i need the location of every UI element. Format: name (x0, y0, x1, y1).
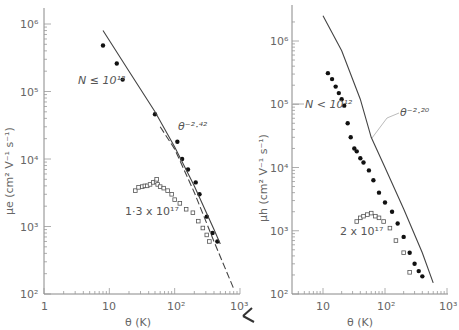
hollow-data-point (191, 211, 195, 215)
hollow-data-point (205, 233, 209, 237)
right-ytick: 10³ (270, 225, 288, 238)
left-xtick: 10 (102, 300, 116, 313)
left-ticks (44, 24, 240, 294)
filled-data-point (330, 77, 334, 81)
hollow-data-point (394, 239, 398, 243)
hollow-data-point (208, 240, 212, 244)
hollow-data-point (196, 219, 200, 223)
filled-data-point (383, 200, 387, 204)
hollow-data-point (366, 213, 370, 217)
filled-data-point (417, 269, 421, 273)
figure: 10² 10³ 10⁴ 10⁵ 10⁶ 1 10 10² 10³ θ (K) μ… (0, 0, 459, 330)
filled-data-point (194, 180, 198, 184)
filled-data-point (407, 250, 411, 254)
filled-data-point (401, 235, 405, 239)
filled-data-point (361, 160, 365, 164)
right-panel: 10² 10³ 10⁴ 10⁵ 10⁶ 10 10² 10³ θ (K) μh … (257, 5, 457, 329)
hollow-data-point (355, 220, 359, 224)
left-ytick: 10⁵ (20, 86, 38, 99)
hollow-data-point (170, 192, 174, 196)
filled-data-point (349, 135, 353, 139)
right-ytick: 10⁵ (270, 98, 288, 111)
filled-data-point (115, 61, 119, 65)
hollow-data-point (166, 189, 170, 193)
filled-data-point (395, 221, 399, 225)
hollow-data-point (201, 226, 205, 230)
hollow-data-point (158, 185, 162, 189)
filled-data-point (337, 91, 341, 95)
left-ytick: 10³ (20, 221, 38, 234)
filled-data-point (412, 262, 416, 266)
left-x-axis-label: θ (K) (125, 316, 151, 329)
left-ytick: 10² (20, 288, 38, 301)
hollow-data-point (184, 207, 188, 211)
filled-data-point (326, 71, 330, 75)
left-xtick: 1 (41, 300, 48, 313)
right-annotation-conc: 2 x 10¹⁷ (340, 225, 383, 238)
filled-data-point (358, 156, 362, 160)
hollow-data-point (388, 226, 392, 230)
left-x-tick-labels: 1 10 10² 10³ (41, 300, 248, 313)
right-ytick: 10² (270, 288, 288, 301)
right-annotation-n: N < 10¹² (305, 98, 353, 111)
left-xtick: 10² (167, 300, 185, 313)
hollow-data-point (374, 214, 378, 218)
right-annotation-power: θ⁻²·²⁰ (400, 106, 430, 119)
filled-data-point (367, 168, 371, 172)
filled-data-point (355, 149, 359, 153)
left-xtick: 10³ (230, 300, 248, 313)
right-x-axis-label: θ (K) (347, 316, 373, 329)
hollow-data-point (402, 251, 406, 255)
filled-data-point (101, 43, 105, 47)
hollow-data-point (408, 271, 412, 275)
right-y-tick-labels: 10² 10³ 10⁴ 10⁵ 10⁶ (270, 35, 289, 301)
right-xtick: 10 (316, 300, 330, 313)
hollow-data-point (173, 198, 177, 202)
left-plot-area (101, 31, 234, 289)
left-panel: 10² 10³ 10⁴ 10⁵ 10⁶ 1 10 10² 10³ θ (K) μ… (3, 8, 254, 329)
right-xtick: 10³ (439, 300, 457, 313)
left-y-axis-label: μe (cm² V⁻¹ s⁻¹) (3, 127, 16, 215)
right-annotation-power-leader (372, 113, 399, 138)
left-annotation-power: θ⁻²·⁴² (178, 120, 208, 133)
hollow-data-point (382, 220, 386, 224)
right-plot-area (323, 16, 433, 283)
hollow-data-point (362, 214, 366, 218)
left-axes (44, 8, 240, 294)
filled-data-point (210, 231, 214, 235)
hollow-data-point (137, 186, 141, 190)
hollow-data-point (369, 211, 373, 215)
theory-curve (323, 16, 433, 283)
right-x-tick-labels: 10 10² 10³ (316, 300, 457, 313)
filled-data-point (371, 178, 375, 182)
right-ytick: 10⁶ (270, 35, 289, 48)
left-annotation-conc: 1·3 x 10¹⁷ (125, 205, 179, 218)
hollow-data-point (377, 216, 381, 220)
left-y-tick-labels: 10² 10³ 10⁴ 10⁵ 10⁶ (20, 18, 39, 301)
filled-data-point (175, 140, 179, 144)
hollow-data-point (162, 186, 166, 190)
left-ytick: 10⁶ (20, 18, 39, 31)
filled-data-point (390, 210, 394, 214)
hollow-data-point (155, 178, 159, 182)
filled-data-point (420, 274, 424, 278)
filled-data-point (333, 84, 337, 88)
left-annotation-n: N ≤ 10¹² (78, 74, 126, 87)
right-ticks (292, 22, 447, 294)
left-ytick: 10⁴ (20, 154, 39, 167)
filled-data-point (345, 121, 349, 125)
filled-data-point (377, 190, 381, 194)
right-axes (292, 5, 448, 294)
right-xtick: 10² (377, 300, 395, 313)
right-y-axis-label: μh (cm² V⁻¹ s⁻¹) (257, 134, 270, 222)
right-ytick: 10⁴ (270, 162, 289, 175)
